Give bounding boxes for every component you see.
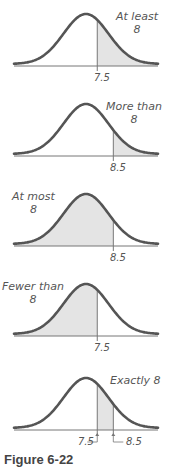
label-line1: Fewer than: [2, 280, 64, 293]
panel-more-than: More than 8 8.5: [0, 94, 169, 180]
tick-label-lower: 7.5: [78, 436, 94, 447]
panel-at-least: At least 8 7.5: [0, 4, 169, 90]
label-line2: 8: [12, 203, 55, 216]
label-line1: Exactly 8: [110, 374, 161, 387]
tick-label: 8.5: [110, 252, 126, 263]
figure-caption: Figure 6-22: [4, 452, 73, 467]
panel-label: More than 8: [106, 100, 162, 126]
panel-label: Exactly 8: [110, 374, 161, 387]
label-line2: 8: [116, 23, 158, 36]
label-line2: 8: [2, 293, 64, 306]
label-line2: 8: [106, 113, 162, 126]
panel-at-most: At most 8 8.5: [0, 184, 169, 270]
tick-label: 7.5: [94, 342, 110, 353]
arrowhead-upper: [111, 433, 115, 436]
shaded-region: [97, 384, 113, 430]
label-line1: More than: [106, 100, 162, 113]
panel-label: At least 8: [116, 10, 158, 36]
label-line1: At least: [116, 10, 158, 23]
tick-label: 8.5: [110, 162, 126, 173]
arrowhead-lower: [95, 433, 99, 436]
panel-label: At most 8: [12, 190, 55, 216]
leader-arrow-upper: [113, 434, 123, 442]
panel-label: Fewer than 8: [2, 280, 64, 306]
panel-fewer-than: Fewer than 8 7.5: [0, 274, 169, 360]
panel-exactly: Exactly 8 7.5 8.5: [0, 368, 169, 454]
tick-label: 7.5: [94, 72, 110, 83]
tick-label-upper: 8.5: [126, 436, 142, 447]
label-line1: At most: [12, 190, 55, 203]
